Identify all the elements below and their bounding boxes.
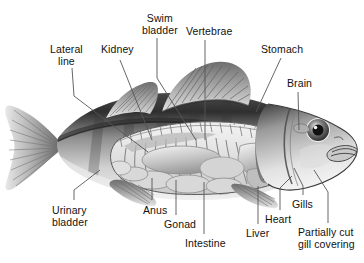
gonad: [200, 157, 244, 179]
label-kidney: Kidney: [101, 44, 134, 56]
label-stomach: Stomach: [261, 44, 303, 56]
tail-fin: [5, 105, 60, 190]
label-heart: Heart: [265, 214, 291, 226]
label-brain: Brain: [287, 78, 312, 90]
label-gonad: Gonad: [164, 219, 196, 231]
label-partially-cut-gill-covering: Partially cut gill covering: [298, 227, 355, 250]
label-liver: Liver: [246, 228, 269, 240]
label-intestine: Intestine: [185, 238, 226, 250]
label-swim-bladder: Swim bladder: [142, 13, 178, 36]
head: [256, 96, 359, 190]
label-lateral-line: Lateral line: [50, 44, 83, 67]
label-anus: Anus: [143, 205, 167, 217]
label-vertebrae: Vertebrae: [186, 26, 232, 38]
label-urinary-bladder: Urinary bladder: [52, 205, 88, 228]
label-gills: Gills: [292, 199, 313, 211]
fish-anatomy-figure: Lateral lineKidneySwim bladderVertebraeS…: [0, 0, 364, 263]
